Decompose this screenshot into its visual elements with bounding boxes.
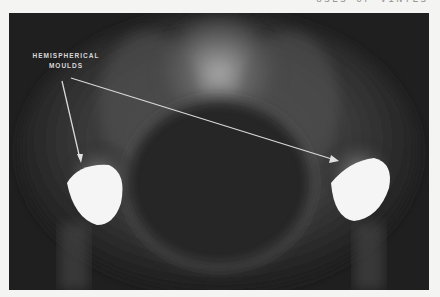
annotation-line-1: HEMISPHERICAL — [21, 51, 111, 61]
annotation-line-2: MOULDS — [21, 61, 111, 71]
xray-photograph: HEMISPHERICAL MOULDS — [9, 13, 429, 290]
annotation-label: HEMISPHERICAL MOULDS — [21, 51, 111, 71]
running-header: USES OF VINYLS — [316, 0, 436, 3]
